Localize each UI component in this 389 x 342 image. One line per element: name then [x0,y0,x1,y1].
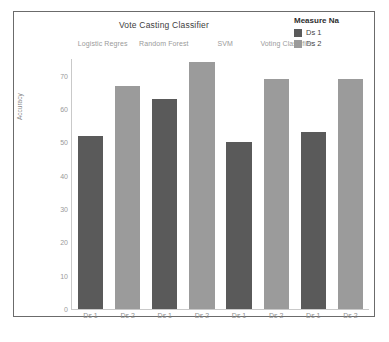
y-axis-label: Accuracy [16,93,23,120]
legend-title: Measure Na [294,16,368,25]
y-axis-tick-20: 20 [60,239,68,246]
x-axis-line [71,309,369,310]
x-axis-tick-label: Ds 2 [332,312,369,319]
legend-swatch-icon [294,29,302,37]
bar-slot [221,59,258,309]
x-axis-tick-label: Ds 1 [72,312,109,319]
bar-series-container [72,59,369,309]
bar-random-forest-ds-1[interactable] [152,99,177,309]
bar-svm-ds-2[interactable] [264,79,289,309]
group-header-svm: SVM [195,40,256,56]
chart-frame: Vote Casting Classifier Measure Na Ds 1 … [13,11,375,317]
x-axis-tick-labels: Ds 1Ds 2Ds 1Ds 2Ds 1Ds 2Ds 1Ds 2 [72,312,369,319]
bar-voting-classifier-ds-1[interactable] [301,132,326,309]
group-header-row: Logistic Regres Random Forest SVM Voting… [72,40,317,56]
x-axis-tick-label: Ds 2 [258,312,295,319]
plot-area [72,59,369,309]
bar-logistic-regres-ds-2[interactable] [115,86,140,309]
group-header-logistic: Logistic Regres [72,40,133,56]
y-axis-tick-10: 10 [60,272,68,279]
x-axis-tick-label: Ds 1 [146,312,183,319]
y-axis-tick-70: 70 [60,72,68,79]
y-axis-tick-50: 50 [60,139,68,146]
bar-slot [109,59,146,309]
legend-item-label: Ds 1 [306,28,321,37]
bar-slot [258,59,295,309]
bar-voting-classifier-ds-2[interactable] [338,79,363,309]
x-axis-tick-label: Ds 2 [183,312,220,319]
legend-item-ds1[interactable]: Ds 1 [294,28,368,37]
group-header-voting-classifier: Voting Classifier [256,40,317,56]
bar-slot [295,59,332,309]
bar-random-forest-ds-2[interactable] [189,62,214,309]
chart-title: Vote Casting Classifier [14,20,314,30]
y-axis-tick-0: 0 [64,306,68,313]
bar-logistic-regres-ds-1[interactable] [78,136,103,309]
x-axis-tick-label: Ds 2 [109,312,146,319]
bar-slot [72,59,109,309]
bar-slot [332,59,369,309]
bar-svm-ds-1[interactable] [226,142,251,309]
x-axis-tick-label: Ds 1 [221,312,258,319]
bar-slot [183,59,220,309]
group-header-random-forest: Random Forest [133,40,194,56]
y-axis-tick-60: 60 [60,106,68,113]
y-axis-tick-40: 40 [60,172,68,179]
x-axis-tick-label: Ds 1 [295,312,332,319]
y-axis-tick-30: 30 [60,206,68,213]
bar-slot [146,59,183,309]
